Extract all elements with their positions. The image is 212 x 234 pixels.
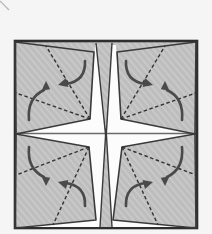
diagram-layers (0, 1, 197, 228)
page-corner-mark (0, 1, 9, 10)
origami-diagram (0, 0, 212, 234)
origami-step-figure (0, 0, 212, 234)
